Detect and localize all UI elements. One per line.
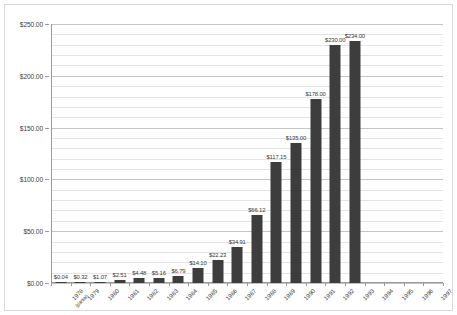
bar-value-label: $5.16 <box>152 270 166 276</box>
y-axis-tick-mark <box>45 179 49 180</box>
y-axis-tick-label: $250.00 <box>20 21 43 28</box>
bar[interactable] <box>212 260 223 283</box>
bar-value-label: $2.51 <box>113 272 127 278</box>
x-axis-tick-mark <box>325 283 326 286</box>
x-axis-tick-label: 1988 <box>264 288 278 302</box>
bar-slot: $2.51 <box>110 24 130 283</box>
y-axis-tick-label: $0.00 <box>27 280 43 287</box>
bar-value-label: $1.07 <box>93 274 107 280</box>
bar[interactable] <box>232 247 243 283</box>
x-axis: 1978(partial)197919801981198219831984198… <box>51 283 443 315</box>
x-axis-tick-mark <box>110 283 111 286</box>
bar-series: $0.04$0.32$1.07$2.51$4.48$5.16$6.79$14.1… <box>51 24 443 283</box>
y-axis-tick-label: $200.00 <box>20 72 43 79</box>
x-axis-tick-label: 1996 <box>420 288 434 302</box>
x-axis-tick-label: 1983 <box>166 288 180 302</box>
bar-value-label: $178.00 <box>305 91 325 97</box>
bar-slot: $22.23 <box>208 24 228 283</box>
bar-value-label: $230.00 <box>325 37 345 43</box>
x-axis-tick-label: 1979 <box>87 288 101 302</box>
bar-slot <box>384 24 404 283</box>
y-axis-tick-label: $50.00 <box>23 228 43 235</box>
y-axis-tick-mark <box>45 231 49 232</box>
bar[interactable] <box>310 99 321 283</box>
bar[interactable] <box>271 162 282 283</box>
bar-slot: $66.12 <box>247 24 267 283</box>
y-axis-tick-mark <box>45 128 49 129</box>
bar-slot <box>423 24 443 283</box>
bar-value-label: $6.79 <box>171 268 185 274</box>
bar-slot: $117.15 <box>267 24 287 283</box>
bar-value-label: $0.04 <box>54 274 68 280</box>
bar[interactable] <box>173 276 184 283</box>
x-axis-tick-label: 1990 <box>303 288 317 302</box>
bar-slot: $34.91 <box>227 24 247 283</box>
bar[interactable] <box>330 45 341 283</box>
bar[interactable] <box>192 268 203 283</box>
bar[interactable] <box>349 41 360 283</box>
x-axis-tick-mark <box>423 283 424 286</box>
x-axis-tick-mark <box>365 283 366 286</box>
bar[interactable] <box>290 143 301 283</box>
x-axis-tick-mark <box>267 283 268 286</box>
bar-slot: $135.00 <box>286 24 306 283</box>
x-axis-tick-mark <box>149 283 150 286</box>
x-axis-tick-mark <box>345 283 346 286</box>
x-axis-tick-mark <box>443 283 444 286</box>
bar-slot: $230.00 <box>325 24 345 283</box>
x-axis-tick-mark <box>208 283 209 286</box>
x-axis-tick-mark <box>286 283 287 286</box>
y-axis-tick-mark <box>45 76 49 77</box>
bar-slot <box>404 24 424 283</box>
x-axis-tick-label: 1984 <box>185 288 199 302</box>
x-axis-tick-label: 1982 <box>146 288 160 302</box>
x-axis-tick-label: 1978(partial) <box>69 288 90 309</box>
chart-frame: $0.00$50.00$100.00$150.00$200.00$250.00 … <box>4 4 453 311</box>
x-axis-tick-mark <box>306 283 307 286</box>
x-axis-tick-label: 1986 <box>224 288 238 302</box>
y-axis-tick-label: $150.00 <box>20 124 43 131</box>
x-axis-tick-mark <box>90 283 91 286</box>
x-axis-tick-label: 1980 <box>107 288 121 302</box>
bar-slot: $0.04 <box>51 24 71 283</box>
bar-slot <box>365 24 385 283</box>
bar-value-label: $34.91 <box>229 239 246 245</box>
bar-value-label: $0.32 <box>73 274 87 280</box>
x-axis-tick-mark <box>247 283 248 286</box>
x-axis-tick-label: 1993 <box>362 288 376 302</box>
bar-slot: $0.32 <box>71 24 91 283</box>
bar-value-label: $4.48 <box>132 270 146 276</box>
x-axis-tick-label: 1995 <box>401 288 415 302</box>
bar-slot: $178.00 <box>306 24 326 283</box>
bar-slot: $4.48 <box>129 24 149 283</box>
x-axis-tick-mark <box>384 283 385 286</box>
x-axis-tick-label: 1997 <box>440 288 454 302</box>
bar-value-label: $66.12 <box>248 207 265 213</box>
x-axis-tick-label: 1987 <box>244 288 258 302</box>
x-axis-tick-mark <box>404 283 405 286</box>
x-axis-tick-mark <box>169 283 170 286</box>
x-axis-tick-label: 1985 <box>205 288 219 302</box>
x-axis-tick-label: 1981 <box>126 288 140 302</box>
y-axis-tick-label: $100.00 <box>20 176 43 183</box>
bar-slot: $234.00 <box>345 24 365 283</box>
bar-slot: $14.10 <box>188 24 208 283</box>
bar-value-label: $22.23 <box>209 252 226 258</box>
x-axis-tick-mark <box>51 283 52 286</box>
bar-value-label: $234.00 <box>345 33 365 39</box>
x-axis-tick-label: 1992 <box>342 288 356 302</box>
bar[interactable] <box>251 215 262 284</box>
x-axis-tick-mark <box>227 283 228 286</box>
x-axis-tick-label: 1989 <box>283 288 297 302</box>
bar-value-label: $14.10 <box>189 260 206 266</box>
x-axis-tick-mark <box>188 283 189 286</box>
bar-slot: $6.79 <box>169 24 189 283</box>
bar-slot: $5.16 <box>149 24 169 283</box>
y-axis-tick-mark <box>45 283 49 284</box>
bar-value-label: $117.15 <box>266 154 286 160</box>
x-axis-tick-label: 1991 <box>322 288 336 302</box>
y-axis: $0.00$50.00$100.00$150.00$200.00$250.00 <box>5 24 49 283</box>
x-axis-tick-label: 1994 <box>381 288 395 302</box>
y-axis-tick-mark <box>45 24 49 25</box>
bar-value-label: $135.00 <box>286 135 306 141</box>
